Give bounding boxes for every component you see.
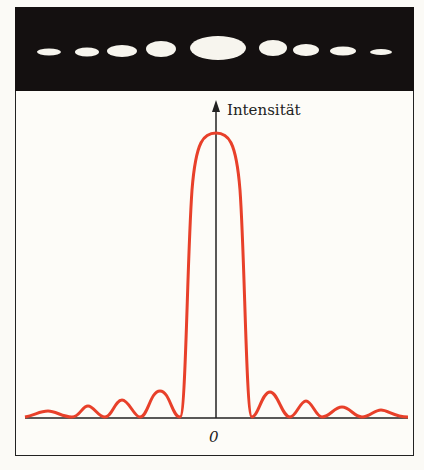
y-axis-arrow-icon bbox=[212, 100, 220, 112]
diffraction-diagram bbox=[0, 0, 424, 470]
y-axis-label: Intensität bbox=[227, 101, 301, 119]
diffraction-spots bbox=[37, 36, 392, 60]
origin-label: 0 bbox=[209, 428, 219, 446]
